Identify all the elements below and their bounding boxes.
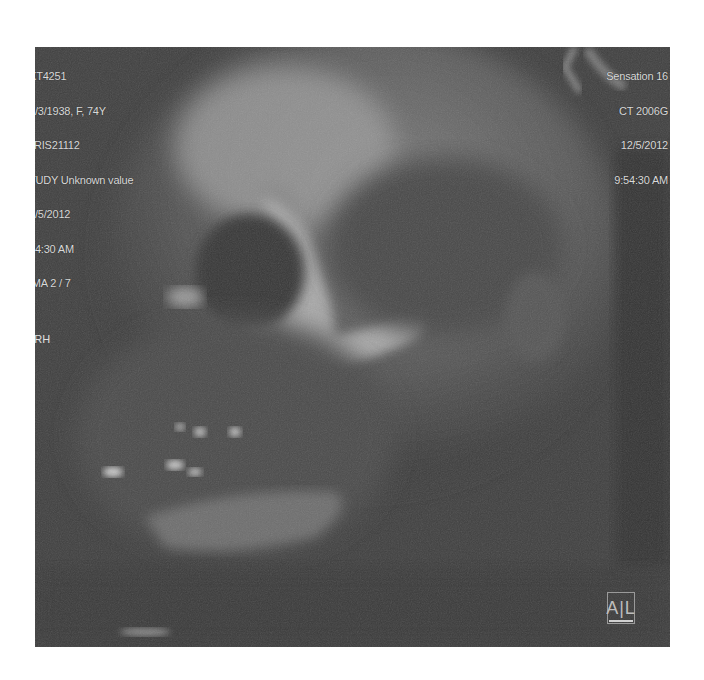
- patient-dob-sex-age: 2/3/1938, F, 74Y: [35, 106, 133, 118]
- orientation-label-left: ARH: [35, 333, 50, 345]
- image-index: IMA 2 / 7: [35, 278, 133, 290]
- software-version: CT 2006G: [606, 106, 668, 118]
- acquisition-date: 12/5/2012: [606, 140, 668, 152]
- image-viewport[interactable]: XT4251 2/3/1938, F, 74Y RIS21112 TUDY Un…: [35, 47, 670, 647]
- scanner-model: Sensation 16: [606, 71, 668, 83]
- patient-info-overlay: XT4251 2/3/1938, F, 74Y RIS21112 TUDY Un…: [35, 48, 133, 313]
- accession-number: RIS21112: [35, 140, 133, 152]
- orientation-cube-base: [609, 620, 633, 622]
- patient-id: XT4251: [35, 71, 133, 83]
- study-date: 2/5/2012: [35, 209, 133, 221]
- study-description: TUDY Unknown value: [35, 175, 133, 187]
- acquisition-time: 9:54:30 AM: [606, 175, 668, 187]
- study-time: 54:30 AM: [35, 244, 133, 256]
- scanner-info-overlay: Sensation 16 CT 2006G 12/5/2012 9:54:30 …: [606, 48, 668, 209]
